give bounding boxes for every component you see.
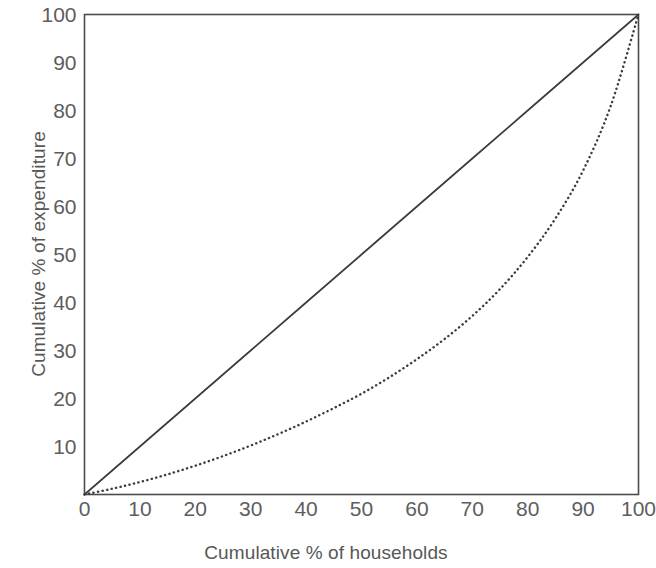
x-tick-label-30: 30	[239, 497, 262, 521]
x-tick-label-40: 40	[294, 497, 317, 521]
y-tick-label-70: 70	[53, 147, 76, 171]
x-tick-label-70: 70	[461, 497, 484, 521]
y-tick-label-40: 40	[53, 291, 76, 315]
x-tick-label-80: 80	[516, 497, 539, 521]
y-axis-title: Cumulative % of expenditure	[26, 14, 52, 494]
x-tick-label-0: 0	[79, 497, 91, 521]
x-tick-label-10: 10	[128, 497, 151, 521]
y-tick-label-50: 50	[53, 243, 76, 267]
y-tick-label-60: 60	[53, 195, 76, 219]
y-tick-label-90: 90	[53, 51, 76, 75]
x-tick-label-50: 50	[350, 497, 373, 521]
y-tick-label-80: 80	[53, 99, 76, 123]
x-tick-label-60: 60	[405, 497, 428, 521]
x-tick-label-100: 100	[621, 497, 656, 521]
x-axis-title: Cumulative % of households	[0, 542, 652, 564]
x-tick-label-90: 90	[571, 497, 594, 521]
x-tick-label-20: 20	[184, 497, 207, 521]
y-tick-label-30: 30	[53, 339, 76, 363]
y-tick-label-20: 20	[53, 387, 76, 411]
y-tick-label-10: 10	[53, 435, 76, 459]
